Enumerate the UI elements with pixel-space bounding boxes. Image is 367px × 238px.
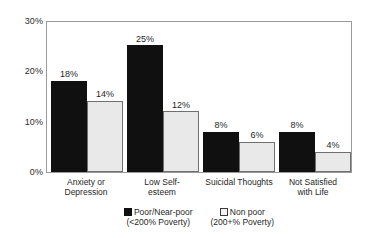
bar-poor-notsatisfied (279, 132, 315, 173)
bar-poor-anxiety (51, 81, 87, 172)
bars-layer: 18% 14% 25% 12% 8% 6% 8% 4% (47, 22, 351, 172)
bar-nonpoor-suicidal (239, 142, 275, 172)
y-tick-10: 10% (3, 118, 43, 127)
bar-value-poor-anxiety: 18% (51, 70, 87, 79)
y-axis: 30% 20% 10% 0% (0, 0, 43, 238)
legend-label-poor: Poor/Near-poor (134, 207, 193, 217)
legend-sublabel-poor: (<200% Poverty) (126, 217, 190, 227)
bar-value-nonpoor-anxiety: 14% (87, 90, 123, 99)
legend: Poor/Near-poor (<200% Poverty) Non poor … (46, 207, 352, 231)
legend-item-nonpoor: Non poor (200+% Poverty) (211, 207, 275, 227)
bar-value-poor-notsatisfied: 8% (279, 121, 315, 130)
bar-value-poor-suicidal: 8% (203, 121, 239, 130)
legend-row-poor: Poor/Near-poor (124, 207, 193, 217)
y-tick-0: 0% (3, 168, 43, 177)
bar-value-nonpoor-notsatisfied: 4% (315, 141, 351, 150)
bar-chart: 30% 20% 10% 0% 18% 14% 25% 12% 8% 6% 8% (0, 0, 367, 238)
legend-swatch-poor-icon (124, 208, 132, 216)
bar-poor-selfesteem (127, 45, 163, 172)
bar-value-nonpoor-selfesteem: 12% (163, 101, 199, 110)
category-label-notsatisfied: Not Satisfied with Life (274, 177, 352, 197)
legend-label-nonpoor: Non poor (230, 207, 265, 217)
category-label-suicidal: Suicidal Thoughts (196, 177, 282, 187)
bar-value-nonpoor-suicidal: 6% (239, 131, 275, 140)
bar-nonpoor-notsatisfied (315, 152, 351, 172)
bar-nonpoor-anxiety (87, 101, 123, 172)
x-axis: Anxiety or Depression Low Self- esteem S… (46, 177, 352, 203)
legend-row-nonpoor: Non poor (220, 207, 265, 217)
y-tick-30: 30% (3, 17, 43, 26)
legend-swatch-nonpoor-icon (220, 208, 228, 216)
legend-sublabel-nonpoor: (200+% Poverty) (211, 217, 275, 227)
bar-poor-suicidal (203, 132, 239, 173)
category-label-selfesteem: Low Self- esteem (122, 177, 202, 197)
bar-value-poor-selfesteem: 25% (127, 35, 163, 44)
legend-item-poor: Poor/Near-poor (<200% Poverty) (124, 207, 193, 227)
plot-area: 18% 14% 25% 12% 8% 6% 8% 4% (46, 21, 352, 173)
bar-nonpoor-selfesteem (163, 111, 199, 172)
category-label-anxiety: Anxiety or Depression (46, 177, 126, 197)
y-tick-20: 20% (3, 67, 43, 76)
